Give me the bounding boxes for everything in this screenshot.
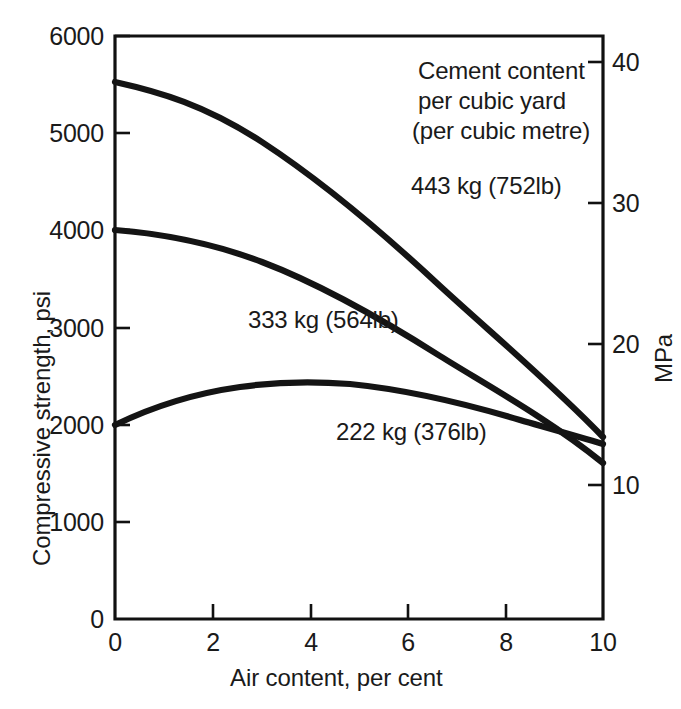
y-axis-title: Compressive strength, psi — [30, 291, 54, 566]
ytick-label-0: 0 — [0, 607, 104, 632]
y2tick-label-40: 40 — [612, 50, 639, 75]
xtick-label-10: 10 — [573, 630, 633, 655]
ytick-label-5000: 5000 — [0, 121, 104, 146]
x-axis-title: Air content, per cent — [230, 666, 443, 690]
ytick-label-6000: 6000 — [0, 24, 104, 49]
series-label-222kg: 222 kg (376lb) — [336, 420, 487, 444]
xtick-label-4: 4 — [281, 630, 341, 655]
chart-figure: 6000 5000 4000 3000 2000 1000 0 0 2 4 6 … — [0, 0, 681, 709]
bottom-axis-ticks — [213, 604, 506, 619]
cement-note-line-3: (per cubic metre) — [412, 116, 590, 146]
xtick-label-2: 2 — [183, 630, 243, 655]
y2tick-label-10: 10 — [612, 473, 639, 498]
cement-note-line-1: Cement content — [418, 56, 585, 86]
ytick-label-4000: 4000 — [0, 218, 104, 243]
xtick-label-0: 0 — [85, 630, 145, 655]
series-label-333kg: 333 kg (564lb) — [248, 308, 399, 332]
y2tick-label-20: 20 — [612, 332, 639, 357]
left-axis-ticks — [115, 36, 130, 522]
cement-note-line-2: per cubic yard — [418, 86, 566, 116]
y2-axis-title: MPa — [652, 334, 676, 383]
xtick-label-8: 8 — [476, 630, 536, 655]
y2tick-label-30: 30 — [612, 191, 639, 216]
series-label-443kg: 443 kg (752lb) — [411, 174, 562, 198]
xtick-label-6: 6 — [378, 630, 438, 655]
plot-canvas — [0, 0, 681, 709]
